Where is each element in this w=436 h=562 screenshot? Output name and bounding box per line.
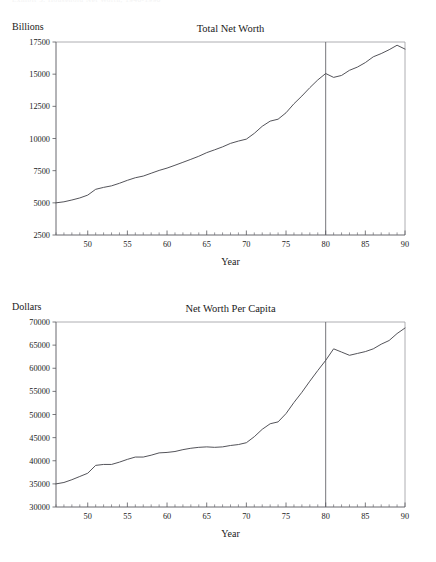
cropped-header-strip: Exhibit 3. Household Net Worth, 1946-199… <box>0 0 436 12</box>
x-tick-label: 85 <box>361 512 369 521</box>
y-tick-label: 40000 <box>29 457 50 466</box>
page-root: Exhibit 3. Household Net Worth, 1946-199… <box>0 0 436 562</box>
y-tick-label: 5000 <box>33 199 50 208</box>
x-tick-label: 75 <box>282 512 290 521</box>
chart-net-worth-per-capita: Net Worth Per CapitaDollarsYear300003500… <box>0 292 436 554</box>
plot-axes <box>56 42 405 235</box>
x-axis-label: Year <box>221 256 240 267</box>
x-tick-label: 65 <box>203 512 211 521</box>
y-tick-label: 35000 <box>29 480 50 489</box>
data-series-line <box>56 45 405 203</box>
x-tick-label: 60 <box>163 512 171 521</box>
x-tick-label: 60 <box>163 240 171 249</box>
y-tick-label: 15000 <box>29 70 50 79</box>
x-tick-label: 65 <box>203 240 211 249</box>
y-tick-label: 60000 <box>29 364 50 373</box>
x-tick-label: 75 <box>282 240 290 249</box>
y-axis-label: Billions <box>12 21 44 32</box>
x-tick-label: 50 <box>84 512 92 521</box>
y-tick-label: 10000 <box>29 135 50 144</box>
chart-title: Total Net Worth <box>197 23 265 34</box>
x-tick-label: 50 <box>84 240 92 249</box>
chart-total-net-worth: Total Net WorthBillionsYear2500500075001… <box>0 18 436 276</box>
x-tick-label: 85 <box>361 240 369 249</box>
x-tick-label: 55 <box>123 512 131 521</box>
chart-title: Net Worth Per Capita <box>185 303 276 314</box>
chart-2-svg: Net Worth Per CapitaDollarsYear300003500… <box>0 292 436 554</box>
data-series-line <box>56 328 405 484</box>
y-tick-label: 65000 <box>29 341 50 350</box>
plot-frame <box>56 42 405 235</box>
x-tick-label: 90 <box>401 240 409 249</box>
x-tick-label: 70 <box>242 512 250 521</box>
x-tick-label: 70 <box>242 240 250 249</box>
y-tick-label: 2500 <box>33 231 50 240</box>
y-tick-label: 12500 <box>29 102 50 111</box>
chart-1-svg: Total Net WorthBillionsYear2500500075001… <box>0 18 436 276</box>
y-tick-label: 17500 <box>29 38 50 47</box>
y-tick-label: 70000 <box>29 318 50 327</box>
y-tick-label: 30000 <box>29 503 50 512</box>
plot-axes <box>56 322 405 507</box>
y-tick-label: 55000 <box>29 387 50 396</box>
x-tick-label: 80 <box>322 240 330 249</box>
y-tick-label: 7500 <box>33 167 50 176</box>
y-tick-label: 45000 <box>29 434 50 443</box>
x-tick-label: 90 <box>401 512 409 521</box>
x-axis-label: Year <box>221 528 240 539</box>
cropped-header-text: Exhibit 3. Household Net Worth, 1946-199… <box>12 0 161 4</box>
x-tick-label: 80 <box>322 512 330 521</box>
plot-frame <box>56 322 405 507</box>
y-axis-label: Dollars <box>12 301 42 312</box>
y-tick-label: 50000 <box>29 411 50 420</box>
x-tick-label: 55 <box>123 240 131 249</box>
